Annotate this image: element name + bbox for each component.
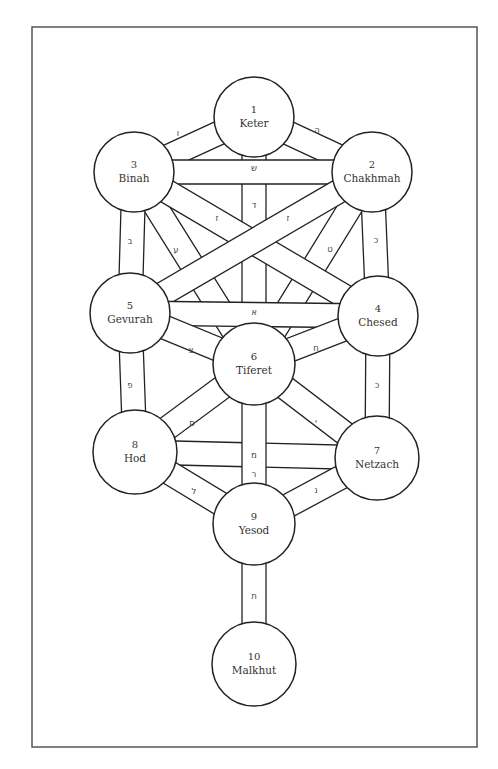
sefirah-number: 10 <box>248 651 261 662</box>
path-letter: ז <box>287 213 290 223</box>
path-letter: פ <box>127 380 132 390</box>
path-letter: כ <box>374 235 379 245</box>
sefirah-name: Gevurah <box>107 313 153 325</box>
path-letter: ט <box>327 244 333 254</box>
sefirah-keter: 1Keter <box>214 77 294 157</box>
sefirah-name: Chesed <box>358 316 398 328</box>
sefirah-number: 8 <box>132 439 138 450</box>
sefirah-binah: 3Binah <box>94 132 174 212</box>
path-letter: א <box>251 307 257 317</box>
sefirah-number: 1 <box>251 104 257 115</box>
path-letter: ח <box>313 343 319 353</box>
sefirah-number: 4 <box>375 303 381 314</box>
path-letter: ס <box>189 418 195 428</box>
sefirah-gevurah: 5Gevurah <box>90 273 170 353</box>
sefirah-name: Chakhmah <box>343 172 400 184</box>
path-letter: ת <box>251 591 257 601</box>
path-letter: ו <box>177 128 179 138</box>
path-letter: כ <box>375 380 380 390</box>
sefirah-number: 7 <box>374 445 380 456</box>
sefirah-name: Binah <box>119 172 150 184</box>
sefirah-hod: 8Hod <box>93 410 177 494</box>
path-letter: ה <box>314 125 320 135</box>
path-letter: ש <box>251 163 257 173</box>
path-letter: ר <box>252 469 257 479</box>
sefirah-chakhmah: 2Chakhmah <box>332 132 412 212</box>
path-letter: נ <box>314 485 317 495</box>
sefirah-name: Keter <box>239 117 269 129</box>
sefirah-number: 9 <box>251 511 257 522</box>
sefirah-chesed: 4Chesed <box>338 276 418 356</box>
tree-of-life-diagram: והדשזזעטבכאצחפכסימרלנת 1Keter2Chakhmah3B… <box>0 0 498 769</box>
sefirah-name: Hod <box>124 452 146 464</box>
sefirah-tiferet: 6Tiferet <box>213 323 295 405</box>
path-letter: ד <box>252 200 257 210</box>
sefirah-name: Tiferet <box>236 364 273 376</box>
sefirah-number: 3 <box>131 159 137 170</box>
path-letter: י <box>315 417 317 427</box>
sefirah-name: Netzach <box>355 458 399 470</box>
path-letter: ל <box>192 486 197 496</box>
sefirah-malkhut: 10Malkhut <box>212 622 296 706</box>
path-letter: מ <box>251 450 257 460</box>
path-letter: ז <box>216 213 219 223</box>
sefirah-name: Malkhut <box>232 664 277 676</box>
sefirah-number: 6 <box>251 351 257 362</box>
path-letter: ע <box>173 245 178 255</box>
sefirah-number: 5 <box>127 300 133 311</box>
sefirah-yesod: 9Yesod <box>213 483 295 565</box>
sefirah-name: Yesod <box>238 524 270 536</box>
path-letter: צ <box>188 345 193 355</box>
sefirah-number: 2 <box>369 159 375 170</box>
sefirah-netzach: 7Netzach <box>335 416 419 500</box>
path-letter: ב <box>128 236 133 246</box>
